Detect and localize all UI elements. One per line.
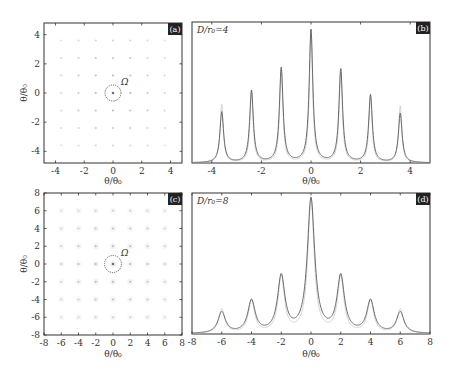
diffraction-spot xyxy=(146,245,148,247)
x-tick-label: -4 xyxy=(207,166,216,176)
y-tick-label: -2 xyxy=(31,117,40,127)
x-tick-label: 0 xyxy=(308,166,314,176)
diffraction-spot xyxy=(112,39,114,41)
panel-a-ylabel: θ/θ₀ xyxy=(19,84,29,102)
diffraction-spot xyxy=(77,144,79,146)
diffraction-spot xyxy=(60,281,62,283)
diffraction-spot xyxy=(112,316,114,318)
diffraction-spot xyxy=(146,57,148,59)
diffraction-spot xyxy=(60,263,62,265)
y-tick-label: 2 xyxy=(34,59,40,69)
x-tick-label: 0 xyxy=(110,338,116,348)
diffraction-spot xyxy=(60,227,62,229)
diffraction-spot xyxy=(129,298,131,300)
diffraction-spot xyxy=(95,109,97,111)
diffraction-spot xyxy=(129,227,131,229)
diffraction-spot xyxy=(164,144,166,146)
diffraction-spot xyxy=(77,245,79,247)
y-tick-label: 2 xyxy=(34,241,40,251)
x-tick-label: 2 xyxy=(139,166,145,176)
diffraction-spot xyxy=(60,210,62,212)
diffraction-spot xyxy=(164,74,166,76)
diffraction-spot xyxy=(146,92,148,94)
diffraction-spot xyxy=(77,263,79,265)
diffraction-spot xyxy=(146,298,148,300)
panel-d-xlabel: θ/θ₀ xyxy=(302,349,320,359)
diffraction-spot xyxy=(112,144,114,146)
panel-d-annotation: D/r₀=8 xyxy=(196,196,229,206)
badge-a-text: (a) xyxy=(169,25,180,34)
y-tick-label: 6 xyxy=(34,206,40,216)
diffraction-spot xyxy=(164,245,166,247)
diffraction-spot xyxy=(77,57,79,59)
diffraction-spot xyxy=(112,263,115,266)
diffraction-spot xyxy=(146,127,148,129)
diffraction-spot xyxy=(60,74,62,76)
diffraction-spot xyxy=(146,316,148,318)
diffraction-spot xyxy=(146,263,148,265)
x-tick-label: -4 xyxy=(51,166,60,176)
panel-b-frame xyxy=(192,22,430,163)
diffraction-spot xyxy=(164,92,166,94)
panel-c-ylabel: θ/θ₀ xyxy=(19,255,29,273)
diffraction-spot xyxy=(77,298,79,300)
diffraction-spot xyxy=(164,281,166,283)
diffraction-spot xyxy=(112,127,114,129)
diffraction-spot xyxy=(95,245,97,247)
diffraction-spot xyxy=(164,298,166,300)
diffraction-spot xyxy=(60,57,62,59)
diffraction-spot xyxy=(164,210,166,212)
x-tick-label: 6 xyxy=(162,338,168,348)
diffraction-spot xyxy=(146,227,148,229)
x-tick-label: 4 xyxy=(168,166,174,176)
diffraction-spot xyxy=(77,316,79,318)
diffraction-spot xyxy=(112,109,114,111)
badge-d-text: (d) xyxy=(417,195,428,204)
x-tick-label: -4 xyxy=(247,337,256,347)
x-tick-label: 2 xyxy=(127,338,133,348)
diffraction-spot xyxy=(146,39,148,41)
diffraction-spot xyxy=(129,245,131,247)
panel-b-line-profile: -4-2024 D/r₀=4 (b) θ/θ₀ xyxy=(192,22,430,186)
diffraction-spot xyxy=(129,263,131,265)
y-tick-label: -2 xyxy=(31,277,40,287)
diffraction-spot xyxy=(95,92,97,94)
x-tick-label: -2 xyxy=(80,166,89,176)
x-tick-label: 0 xyxy=(308,337,314,347)
x-tick-label: -4 xyxy=(74,338,83,348)
panel-d-frame xyxy=(192,193,430,334)
diffraction-spot xyxy=(60,127,62,129)
y-tick-label: -4 xyxy=(31,146,40,156)
diffraction-spot xyxy=(146,144,148,146)
panel-b-xlabel: θ/θ₀ xyxy=(302,176,320,186)
diffraction-spot xyxy=(112,281,114,283)
x-tick-label: 8 xyxy=(427,337,433,347)
diffraction-spot xyxy=(164,227,166,229)
diffraction-spot xyxy=(146,109,148,111)
x-tick-label: -6 xyxy=(57,338,66,348)
diffraction-spot xyxy=(164,109,166,111)
diffraction-spot xyxy=(95,127,97,129)
figure: -4-2024-4-2024 Ω (a) θ/θ₀ θ/θ₀ -4-2024 D… xyxy=(0,0,453,373)
x-tick-label: -8 xyxy=(40,338,49,348)
panel-c-xlabel: θ/θ₀ xyxy=(104,349,122,359)
panel-a-xlabel: θ/θ₀ xyxy=(104,176,122,186)
x-tick-label: 2 xyxy=(358,166,364,176)
diffraction-spot xyxy=(112,227,114,229)
diffraction-spot xyxy=(77,109,79,111)
diffraction-spot xyxy=(112,74,114,76)
diffraction-spot xyxy=(129,127,131,129)
diffraction-spot xyxy=(95,263,97,265)
diffraction-spot xyxy=(129,74,131,76)
panel-c-spot-lattice: -8-6-4-202468-8-6-4-202468 Ω (c) θ/θ₀ θ/… xyxy=(19,188,185,359)
panel-d-line-profile: -8-6-4-202468 D/r₀=8 (d) θ/θ₀ xyxy=(188,193,434,359)
diffraction-spot xyxy=(129,39,131,41)
diffraction-spot xyxy=(112,298,114,300)
x-tick-label: -2 xyxy=(277,337,286,347)
diffraction-spot xyxy=(95,227,97,229)
diffraction-spot xyxy=(60,298,62,300)
y-tick-label: 4 xyxy=(34,224,40,234)
diffraction-spot xyxy=(112,92,115,95)
x-tick-label: 0 xyxy=(110,166,116,176)
x-tick-label: 4 xyxy=(368,337,374,347)
